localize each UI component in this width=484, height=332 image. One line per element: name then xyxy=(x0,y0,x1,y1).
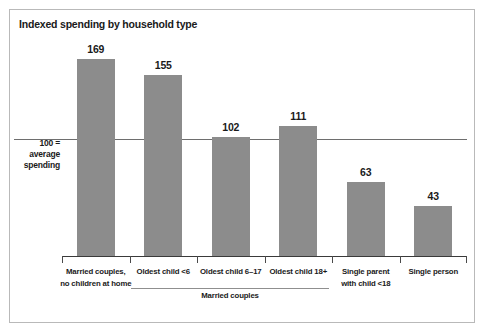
bar-slot-1: 155 xyxy=(130,34,198,256)
x-axis-category-labels: Married couples, no children at home Old… xyxy=(62,266,467,306)
bar-4[interactable] xyxy=(347,182,385,256)
married-couples-group-label: Married couples xyxy=(131,291,329,300)
category-label-5-line1: Single person xyxy=(392,266,474,278)
bar-5[interactable] xyxy=(414,206,452,256)
x-axis-tick-0 xyxy=(62,256,63,263)
x-axis-tick-2 xyxy=(197,256,198,263)
reference-line-label: 100 = average spending xyxy=(14,138,60,171)
bar-slot-4: 63 xyxy=(332,34,400,256)
chart-title: Indexed spending by household type xyxy=(19,18,197,30)
bar-value-1: 155 xyxy=(155,59,172,71)
bar-0[interactable] xyxy=(77,59,115,256)
bar-value-0: 169 xyxy=(87,43,104,55)
chart-figure: Indexed spending by household type 100 =… xyxy=(0,0,484,332)
bar-value-5: 43 xyxy=(428,190,439,202)
bar-value-4: 63 xyxy=(360,166,371,178)
married-couples-group-rule xyxy=(131,288,329,289)
x-axis-tick-4 xyxy=(332,256,333,263)
x-axis-ticks xyxy=(62,256,467,264)
bar-slot-5: 43 xyxy=(400,34,468,256)
reference-line-label-line3: spending xyxy=(14,160,60,171)
bar-1[interactable] xyxy=(144,75,182,256)
category-label-5: Single person xyxy=(392,266,474,278)
bar-slot-3: 111 xyxy=(265,34,333,256)
x-axis-tick-5 xyxy=(400,256,401,263)
bar-slot-0: 169 xyxy=(62,34,130,256)
bar-value-3: 111 xyxy=(290,110,306,122)
category-label-0-line2: no children at home xyxy=(55,278,137,290)
bar-3[interactable] xyxy=(279,126,317,256)
category-label-4-line2: with child <18 xyxy=(325,278,407,290)
bar-value-2: 102 xyxy=(222,121,239,133)
bar-slot-2: 102 xyxy=(197,34,265,256)
bar-series: 169 155 102 111 63 43 xyxy=(62,34,467,256)
bar-2[interactable] xyxy=(212,137,250,256)
x-axis-tick-1 xyxy=(130,256,131,263)
x-axis-tick-6 xyxy=(466,256,467,263)
x-axis-tick-3 xyxy=(265,256,266,263)
reference-line-label-line2: average xyxy=(14,149,60,160)
